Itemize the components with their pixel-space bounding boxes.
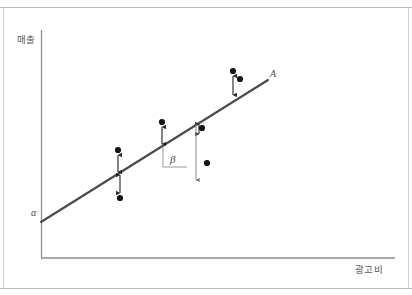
data-point [115,147,121,153]
data-point [199,125,205,131]
data-point [230,68,236,74]
residual-arrows [118,76,233,193]
regression-line [41,80,268,222]
axes [41,30,395,259]
data-point [237,76,243,82]
y-axis-label: 매출 [17,32,36,46]
regression-plot [0,0,412,295]
slope-beta-label: β [170,153,175,165]
x-axis-label: 광고비 [355,262,383,276]
chart-page: 매출 광고비 α β A [0,0,412,295]
data-point [204,160,210,166]
data-point [117,195,123,201]
data-point [159,119,165,125]
intercept-alpha-label: α [31,207,36,218]
regression-line-label: A [270,68,276,79]
